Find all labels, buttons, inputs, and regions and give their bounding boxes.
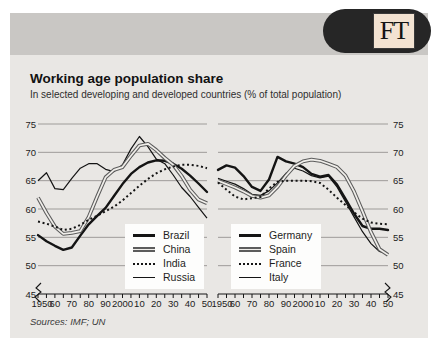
y-axis-label: 45 — [393, 289, 404, 300]
y-axis-label: 45 — [25, 289, 36, 300]
y-axis-label: 75 — [393, 119, 404, 130]
legend-label: Spain — [269, 244, 296, 255]
legend-label: Italy — [269, 272, 288, 283]
thin-line-swatch — [239, 277, 261, 279]
legend-label: Russia — [163, 272, 195, 283]
legend-item-brazil: Brazil — [133, 229, 195, 242]
x-axis-label: 70 — [247, 298, 258, 309]
x-axis-label: 90 — [281, 298, 292, 309]
y-axis-label: 65 — [25, 175, 36, 186]
population-share-charts: 1950607080902000102030405075706560555045… — [22, 116, 430, 312]
y-axis-label: 75 — [25, 119, 36, 130]
legend-label: France — [269, 258, 302, 269]
legend-label: Germany — [269, 230, 312, 241]
dotted-line-swatch — [133, 263, 155, 265]
y-axis-label: 50 — [25, 260, 36, 271]
x-axis-label: 2000 — [112, 298, 133, 309]
x-axis-label: 30 — [168, 298, 179, 309]
header-band: FT — [10, 13, 428, 55]
x-axis-label: 40 — [185, 298, 196, 309]
chart-content: Working age population share In selected… — [10, 55, 428, 327]
legend-developed: GermanySpainFranceItaly — [231, 224, 321, 289]
source-note: Sources: IMF; UN — [30, 316, 428, 327]
x-axis-label: 60 — [230, 298, 241, 309]
thick-line-swatch — [133, 234, 155, 237]
y-axis-label: 65 — [393, 175, 404, 186]
x-axis-label: 70 — [67, 298, 78, 309]
x-axis-label: 60 — [50, 298, 61, 309]
x-axis-label: 90 — [100, 298, 111, 309]
series-france-line — [218, 181, 388, 225]
legend-item-germany: Germany — [239, 229, 312, 242]
legend-item-italy: Italy — [239, 271, 312, 284]
legend-developing: BrazilChinaIndiaRussia — [125, 224, 204, 289]
y-axis-label: 60 — [393, 204, 404, 215]
x-axis-label: 10 — [134, 298, 145, 309]
y-axis-label: 50 — [393, 260, 404, 271]
legend-item-china: China — [133, 243, 195, 256]
x-axis-label: 80 — [264, 298, 275, 309]
legend-label: India — [163, 258, 186, 269]
legend-item-india: India — [133, 257, 195, 270]
ft-logo: FT — [323, 9, 431, 53]
ft-logo-square: FT — [373, 13, 415, 49]
double-line-swatch — [133, 247, 155, 252]
x-axis-label: 30 — [349, 298, 360, 309]
x-axis-label: 20 — [332, 298, 343, 309]
legend-item-france: France — [239, 257, 312, 270]
y-axis-label: 55 — [393, 232, 404, 243]
legend-label: Brazil — [163, 230, 189, 241]
thin-line-swatch — [133, 277, 155, 279]
y-axis-label: 70 — [393, 147, 404, 158]
x-axis-label: 80 — [83, 298, 94, 309]
chart-card: FT Working age population share In selec… — [10, 13, 428, 338]
x-axis-label: 10 — [315, 298, 326, 309]
page-subtitle: In selected developing and developed cou… — [30, 89, 428, 100]
charts-area: 1950607080902000102030405075706560555045… — [22, 116, 430, 312]
thick-line-swatch — [239, 234, 261, 237]
y-axis-label: 60 — [25, 204, 36, 215]
y-axis-label: 55 — [25, 232, 36, 243]
legend-label: China — [163, 244, 190, 255]
page-title: Working age population share — [30, 71, 428, 86]
double-line-swatch — [239, 247, 261, 252]
x-axis-label: 2000 — [292, 298, 313, 309]
y-axis-label: 70 — [25, 147, 36, 158]
legend-item-russia: Russia — [133, 271, 195, 284]
legend-item-spain: Spain — [239, 243, 312, 256]
ft-logo-text: FT — [380, 18, 408, 44]
x-axis-label: 40 — [366, 298, 377, 309]
dotted-line-swatch — [239, 263, 261, 265]
x-axis-label: 20 — [151, 298, 162, 309]
